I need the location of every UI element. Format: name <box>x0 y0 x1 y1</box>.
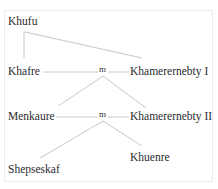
person-khufu: Khufu <box>8 15 37 28</box>
line-m1-menkaure <box>58 76 103 106</box>
line-m2-shepseskaf <box>40 121 103 158</box>
person-khamerernebty-2: Khamerernebty II <box>130 110 212 123</box>
person-shepseskaf: Shepseskaf <box>8 163 60 176</box>
line-m2-khuenre <box>103 121 142 146</box>
person-khamerernebty-1: Khamerernebty I <box>130 65 208 78</box>
line-khufu-khamerernebty1 <box>25 32 142 58</box>
marriage-marker-1: m <box>98 65 107 74</box>
marriage-marker-2: m <box>98 110 107 119</box>
person-menkaure: Menkaure <box>8 110 55 123</box>
person-khuenre: Khuenre <box>130 151 170 164</box>
connector-lines <box>0 0 218 189</box>
person-khafre: Khafre <box>8 65 40 78</box>
line-m1-khamerernebty2 <box>103 76 146 108</box>
